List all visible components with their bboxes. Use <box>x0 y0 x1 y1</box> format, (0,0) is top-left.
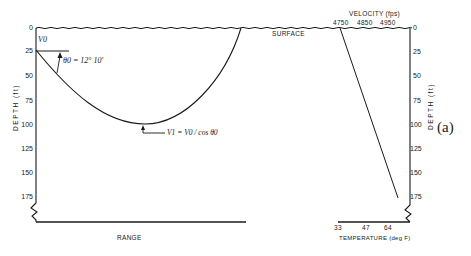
right-tick-50: 50 <box>413 72 421 79</box>
right-tick-150: 150 <box>410 169 422 176</box>
right-tick-0: 0 <box>413 24 417 31</box>
theta0-annotation: θ0 = 12° 10′ <box>63 57 103 65</box>
left-tick-25: 25 <box>11 47 33 54</box>
right-tick-175: 175 <box>410 193 422 200</box>
velocity-tick-4750: 4750 <box>333 20 349 27</box>
velocity-tick-4950: 4950 <box>380 20 396 27</box>
right-tick-25: 25 <box>413 48 421 55</box>
vertex-velocity-annotation: V1 = V0 / cos θ0 <box>167 129 218 137</box>
left-tick-150: 150 <box>11 169 33 176</box>
velocity-profile-line <box>340 28 398 198</box>
right-axis-label: DEPTH (ft) <box>427 82 434 132</box>
right-tick-100: 100 <box>410 121 422 128</box>
temperature-axis-title: TEMPERATURE (deg F) <box>339 235 411 241</box>
vertex-arrow-head <box>141 125 145 130</box>
diagram-lines <box>0 0 471 256</box>
left-tick-175: 175 <box>11 193 33 200</box>
velocity-axis-title: VELOCITY (fps) <box>349 11 400 18</box>
v0-annotation: V0 <box>38 36 47 44</box>
theta-arrow-shaft <box>57 56 60 73</box>
panel-label: (a) <box>437 119 454 136</box>
theta-arrow-head <box>58 52 63 58</box>
left-tick-0: 0 <box>11 24 33 31</box>
left-axis-label: DEPTH (ft) <box>12 83 19 133</box>
velocity-tick-4850: 4850 <box>357 20 373 27</box>
right-tick-75: 75 <box>413 97 421 104</box>
surface-label: SURFACE <box>272 31 305 38</box>
range-label: RANGE <box>117 235 142 242</box>
left-tick-50: 50 <box>11 72 33 79</box>
temperature-tick-64: 64 <box>384 225 392 232</box>
surface-line <box>36 27 412 28</box>
right-tick-125: 125 <box>410 145 422 152</box>
left-tick-125: 125 <box>11 145 33 152</box>
temperature-tick-47: 47 <box>362 225 370 232</box>
sound-ray-curve <box>36 28 241 124</box>
ray-path-diagram: 0 25 50 75 100 125 150 175 DEPTH (ft) 0 … <box>0 0 471 256</box>
temperature-tick-33: 33 <box>334 225 342 232</box>
